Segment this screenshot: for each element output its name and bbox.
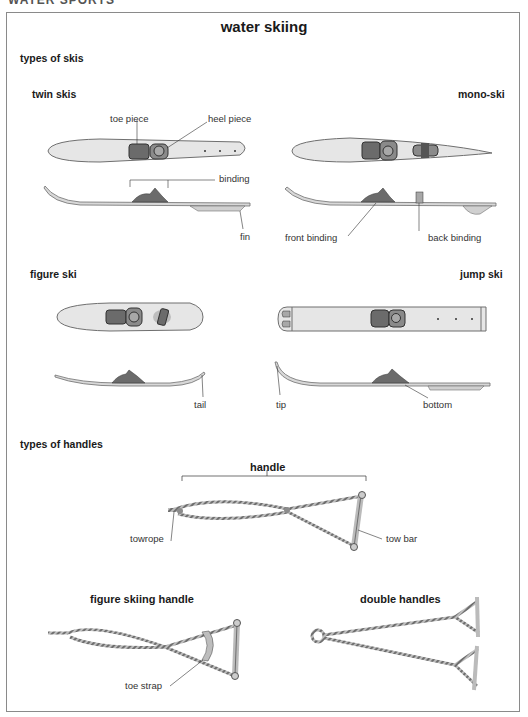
jump-ski-top-view — [278, 307, 486, 331]
figure-skiing-handle-illustration — [48, 620, 241, 687]
double-handles-illustration — [312, 597, 479, 690]
jump-ski-side-view — [275, 362, 490, 398]
twin-ski-side-view — [44, 180, 250, 229]
twin-ski-top-view — [48, 120, 245, 162]
illustrations — [0, 0, 528, 717]
mono-ski-side-view — [285, 187, 496, 236]
figure-ski-top-view — [57, 303, 203, 331]
figure-ski-side-view — [55, 370, 205, 397]
mono-ski-top-view — [292, 138, 492, 162]
handle-illustration — [168, 470, 382, 551]
